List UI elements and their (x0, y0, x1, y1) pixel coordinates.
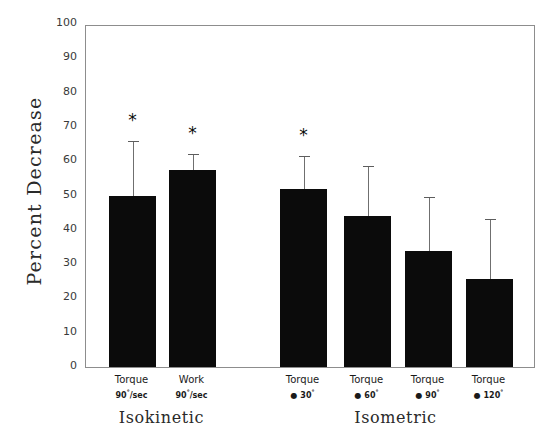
x-tick-label-line1: Work (149, 374, 235, 386)
y-tick-label: 80 (45, 85, 77, 98)
error-bar-cap (188, 154, 199, 155)
error-bar-cap (485, 219, 496, 220)
degree-symbol: ° (311, 388, 314, 395)
degree-symbol: ° (500, 388, 503, 395)
degree-symbol: ° (375, 388, 378, 395)
bar-torque-90-sec[interactable] (109, 196, 156, 368)
y-tick-label: 0 (45, 359, 77, 372)
significance-marker: * (297, 131, 311, 139)
degree-symbol: ° (436, 388, 439, 395)
group-isometric: Isometric (296, 408, 496, 427)
bar-torque-at-60[interactable] (344, 216, 391, 367)
y-tick-label: 20 (45, 290, 77, 303)
y-axis-title: Percent Decrease (23, 71, 45, 311)
plot-area: *** (85, 25, 535, 368)
y-tick-label: 10 (45, 325, 77, 338)
bar-torque-at-90[interactable] (405, 251, 452, 367)
x-tick-label: Work90°/sec (149, 374, 235, 402)
significance-marker: * (126, 116, 140, 124)
y-tick-label: 30 (45, 256, 77, 269)
y-tick-label: 50 (45, 188, 77, 201)
figure-root: Percent Decrease 0102030405060708090100 … (0, 0, 555, 440)
degree-symbol: ° (187, 388, 190, 395)
bar-torque-at-120[interactable] (466, 279, 513, 367)
y-tick-label: 70 (45, 119, 77, 132)
bar-work-90-sec[interactable] (169, 170, 216, 367)
x-tick-label-line2: ● 120° (446, 386, 532, 402)
error-bar-cap (299, 156, 310, 157)
x-tick-label-line2: 90°/sec (149, 386, 235, 402)
y-tick-label: 40 (45, 222, 77, 235)
error-bar-cap (128, 141, 139, 142)
error-bar-cap (363, 166, 374, 167)
y-tick-label: 60 (45, 153, 77, 166)
y-tick-label: 100 (45, 16, 77, 29)
significance-marker: * (186, 129, 200, 137)
x-tick-label: Torque● 120° (446, 374, 532, 402)
group-isokinetic: Isokinetic (62, 408, 262, 427)
y-tick-label: 90 (45, 50, 77, 63)
x-tick-label-line1: Torque (446, 374, 532, 386)
error-bar-cap (424, 197, 435, 198)
bar-torque-at-30[interactable] (280, 189, 327, 367)
degree-symbol: ° (127, 388, 130, 395)
